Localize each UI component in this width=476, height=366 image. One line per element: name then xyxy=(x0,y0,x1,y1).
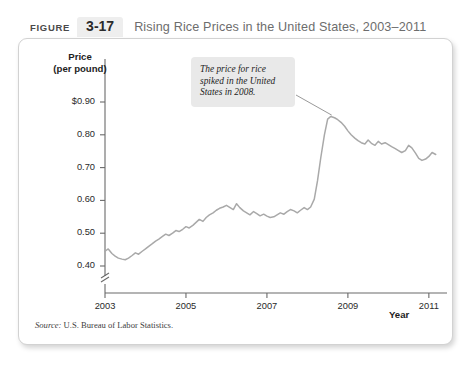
source-prefix: Source: xyxy=(35,320,61,330)
y-tick-label: 0.40 xyxy=(51,260,95,270)
x-tick-label: 2007 xyxy=(247,301,287,311)
y-axis-title-line2: (per pound) xyxy=(53,63,106,74)
x-tick-label: 2011 xyxy=(409,301,449,311)
figure-title: Rising Rice Prices in the United States,… xyxy=(134,20,426,34)
annotation-callout: The price for rice spiked in the United … xyxy=(191,57,295,107)
y-tick-label: 0.70 xyxy=(51,162,95,172)
y-tick-label: 0.80 xyxy=(51,129,95,139)
x-tick-label: 2003 xyxy=(85,301,125,311)
y-axis-title-line1: Price xyxy=(68,51,91,62)
figure-number-badge: 3-17 xyxy=(77,17,123,37)
figure-panel: Price (per pound) Year $0.900.800.700.60… xyxy=(18,38,453,345)
y-axis-title: Price (per pound) xyxy=(41,51,119,75)
chart-plot-area: Price (per pound) Year $0.900.800.700.60… xyxy=(19,39,454,346)
x-tick-label: 2005 xyxy=(166,301,206,311)
y-tick-label: 0.60 xyxy=(51,194,95,204)
figure-header: FIGURE 3-17 Rising Rice Prices in the Un… xyxy=(0,16,476,38)
source-note: Source: U.S. Bureau of Labor Statistics. xyxy=(35,320,173,330)
figure-label: FIGURE xyxy=(30,22,70,33)
y-tick-label: $0.90 xyxy=(51,96,95,106)
y-tick-label: 0.50 xyxy=(51,227,95,237)
source-text: U.S. Bureau of Labor Statistics. xyxy=(64,320,174,330)
x-axis-title: Year xyxy=(389,309,409,321)
x-tick-label: 2009 xyxy=(328,301,368,311)
